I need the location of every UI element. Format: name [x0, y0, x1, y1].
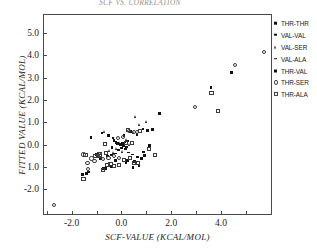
data-point-thr-ala: [104, 151, 108, 155]
x-axis-tick: [171, 211, 172, 215]
legend-marker-icon: [274, 80, 278, 84]
data-point-val-val: [107, 134, 110, 137]
data-point-val-ala: [117, 149, 120, 151]
legend-item-val-ser[interactable]: VAL-SER: [274, 41, 317, 53]
data-point-thr-thr: [111, 146, 114, 149]
legend-marker-icon: [274, 22, 277, 25]
legend-label: THR-VAL: [281, 67, 307, 74]
data-point-val-ser: [145, 120, 147, 123]
legend-item-val-ala[interactable]: VAL-ALA: [274, 53, 317, 65]
y-axis-tick: [43, 33, 47, 34]
data-point-thr-ala: [98, 152, 102, 156]
data-point-val-ser: [134, 115, 136, 118]
data-point-thr-ala: [103, 142, 107, 146]
data-point-val-val: [158, 112, 161, 115]
legend-label: THR-ALA: [281, 91, 308, 98]
x-axis-tick-minor: [246, 211, 247, 215]
data-point-val-val: [112, 137, 115, 140]
data-point-thr-ser: [233, 63, 237, 67]
chart-title: SCF VS. CORRELATION: [0, 0, 280, 6]
x-axis-tick-minor: [271, 211, 272, 215]
x-axis-tick: [121, 211, 122, 215]
x-axis-title: SCF-VALUE (KCAL/MOL): [43, 232, 272, 242]
data-point-thr-ser: [92, 159, 96, 163]
scatter-plot-figure: SCF VS. CORRELATION -2.00.02.04.05.04.03…: [0, 0, 317, 252]
data-point-thr-ala: [126, 128, 130, 132]
data-point-thr-val: [143, 154, 146, 157]
x-axis-tick-label: 4.0: [215, 218, 227, 228]
legend-label: THR-SER: [281, 79, 309, 86]
data-point-val-ser: [118, 141, 120, 144]
data-point-thr-ala: [130, 141, 134, 145]
data-point-thr-ser: [262, 50, 266, 54]
data-point-val-ser: [121, 150, 123, 153]
chart-legend: THR-THRVAL-VALVAL-SERVAL-ALATHR-VALTHR-S…: [274, 17, 317, 100]
legend-label: VAL-VAL: [281, 31, 306, 38]
data-point-thr-ala: [138, 129, 142, 133]
data-point-thr-ser: [85, 161, 89, 165]
legend-marker-icon: [274, 58, 277, 60]
data-point-thr-ala: [147, 147, 151, 151]
x-axis-tick-label: 0.0: [115, 218, 127, 228]
y-axis-tick: [43, 122, 47, 123]
x-axis-tick-label: -2.0: [64, 218, 79, 228]
data-point-val-val: [132, 166, 135, 169]
y-axis-tick: [43, 189, 47, 190]
legend-item-thr-thr[interactable]: THR-THR: [274, 17, 317, 29]
data-point-thr-ala: [83, 153, 87, 157]
y-axis-tick: [43, 145, 47, 146]
data-point-val-val: [210, 86, 213, 89]
data-point-thr-val: [151, 128, 154, 131]
y-axis-tick-label: 5.0: [10, 28, 39, 38]
data-point-thr-ser: [117, 156, 121, 160]
data-point-thr-ser: [106, 156, 110, 160]
legend-item-thr-ser[interactable]: THR-SER: [274, 76, 317, 88]
x-axis-tick-minor: [196, 211, 197, 215]
legend-marker-icon: [274, 34, 277, 37]
legend-item-val-val[interactable]: VAL-VAL: [274, 29, 317, 41]
y-axis-tick: [43, 55, 47, 56]
x-axis-tick-minor: [47, 211, 48, 215]
data-point-thr-ala: [122, 158, 126, 162]
plot-area: [43, 14, 272, 215]
legend-label: VAL-ALA: [281, 55, 306, 62]
data-point-thr-ala: [101, 168, 105, 172]
data-point-thr-ala: [128, 156, 132, 160]
legend-marker-icon: [274, 92, 278, 96]
data-point-thr-ala: [81, 177, 85, 181]
data-point-thr-ala: [153, 153, 157, 157]
legend-label: VAL-SER: [281, 43, 307, 50]
data-point-thr-ala: [124, 141, 128, 145]
legend-item-thr-val[interactable]: THR-VAL: [274, 65, 317, 77]
y-axis-tick: [43, 167, 47, 168]
data-point-val-ser: [103, 130, 105, 133]
x-axis-tick: [221, 211, 222, 215]
data-point-thr-ala: [136, 161, 140, 165]
y-axis-title: FITTED VALUE (KCAL/MOL): [17, 40, 27, 190]
legend-item-thr-ala[interactable]: THR-ALA: [274, 88, 317, 100]
data-point-val-val: [125, 162, 128, 165]
data-point-val-ala: [142, 151, 145, 153]
x-axis-tick-label: 2.0: [165, 218, 177, 228]
data-point-val-ala: [124, 148, 127, 150]
data-point-thr-ser: [193, 105, 197, 109]
data-point-thr-ser: [112, 154, 116, 158]
data-point-val-val: [230, 71, 233, 74]
y-axis-tick: [43, 78, 47, 79]
data-point-val-ser: [138, 123, 140, 126]
data-point-thr-val: [81, 173, 84, 176]
legend-marker-icon: [274, 69, 277, 72]
data-point-val-ser: [108, 149, 110, 152]
data-point-val-val: [90, 136, 93, 139]
x-axis-tick: [72, 211, 73, 215]
data-point-thr-ala: [216, 109, 220, 113]
data-point-thr-ser: [101, 157, 105, 161]
data-point-thr-ser: [116, 136, 120, 140]
data-point-thr-val: [140, 157, 143, 160]
x-axis-tick-minor: [97, 211, 98, 215]
data-point-thr-ser: [52, 203, 56, 207]
data-point-thr-ala: [209, 91, 213, 95]
data-point-thr-ala: [117, 163, 121, 167]
data-point-val-val: [146, 129, 149, 132]
y-axis-tick: [43, 100, 47, 101]
